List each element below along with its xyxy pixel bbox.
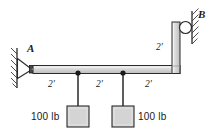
dimension-label-v1: 2' [156,43,163,53]
support-label-b: B [198,9,205,20]
weight-block-right [112,106,134,127]
dimension-label-h1: 2' [48,80,55,90]
horizontal-beam-member [33,66,180,74]
support-label-a: A [27,43,34,54]
wall-at-a [11,48,17,88]
load-label-left: 100 lb [31,112,59,122]
roller-support-icon [180,22,192,34]
load-hanger-left [75,70,80,106]
vertical-column-member [172,22,180,74]
dimension-label-h3: 2' [145,80,152,90]
statics-diagram-figure: A B 2' 2' 2' 2' 100 lb 100 lb [0,0,215,134]
wall-hatching-a [11,48,17,88]
load-hanger-right [120,70,125,106]
dimension-label-h2: 2' [96,80,103,90]
load-label-right: 100 lb [138,112,166,122]
weight-block-left [67,106,89,127]
